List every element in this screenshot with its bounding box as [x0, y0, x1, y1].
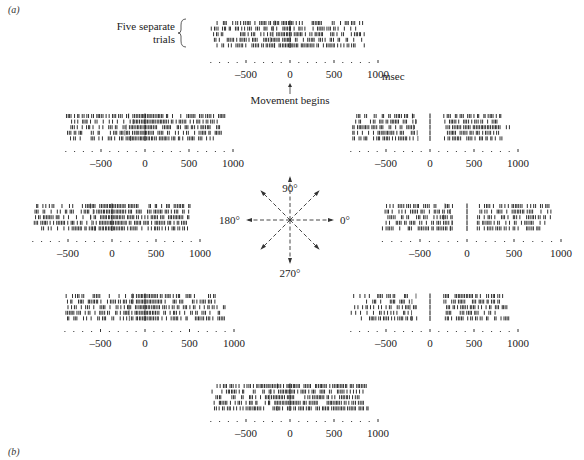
trial-row — [35, 209, 189, 214]
trials-brace — [178, 19, 186, 47]
tick-label: 1000 — [223, 337, 246, 349]
tick-label: –500 — [374, 337, 398, 349]
raster-panel-135: –50005001000 — [66, 114, 245, 170]
tick-label: 1000 — [550, 247, 573, 259]
trial-row — [214, 32, 365, 37]
trial-row — [68, 305, 225, 310]
compass-arrow-270 — [288, 220, 292, 264]
trial-row — [66, 294, 215, 299]
trial-row — [36, 215, 189, 220]
raster-panel-180: –50005001000 — [33, 204, 212, 260]
tick-label: 500 — [506, 247, 523, 259]
trial-row — [211, 26, 355, 31]
trial-row — [355, 305, 507, 310]
trial-row — [71, 125, 220, 130]
trial-row — [66, 310, 220, 315]
time-axis: –50005001000 — [66, 149, 245, 169]
tick-label: –500 — [56, 247, 80, 259]
raster-panel-270: –50005001000 — [211, 384, 390, 440]
time-axis: –50005001000 — [211, 419, 390, 439]
trial-row — [353, 136, 502, 141]
tick-label: 1000 — [222, 157, 245, 169]
compass-arrow-180 — [246, 218, 290, 222]
tick-label: 0 — [464, 247, 470, 259]
compass-arrow-135 — [260, 190, 290, 220]
tick-label: 0 — [427, 157, 433, 169]
movement-label: Movement begins — [250, 94, 329, 106]
trial-row — [217, 43, 364, 48]
trial-row — [72, 119, 218, 124]
tick-label: 0 — [427, 337, 433, 349]
tick-label: 1000 — [507, 157, 530, 169]
trial-row — [66, 114, 224, 119]
tick-label: –500 — [89, 157, 113, 169]
tick-label: –500 — [89, 337, 113, 349]
time-axis: –50005001000 — [211, 60, 390, 80]
raster-figure: (a) (b) Five separate trials msec Moveme… — [0, 0, 584, 460]
trial-row — [216, 395, 359, 400]
raster-panel-45: –50005001000 — [351, 114, 530, 170]
tick-label: 500 — [326, 68, 343, 80]
tick-label: 0 — [142, 157, 148, 169]
trial-row — [42, 226, 188, 231]
trial-row — [382, 226, 539, 231]
raster-panels: –50005001000–50005001000–50005001000–500… — [33, 21, 573, 440]
tick-label: 1000 — [367, 68, 390, 80]
time-axis: –50005001000 — [65, 329, 246, 349]
trial-row — [217, 384, 366, 389]
trial-row — [353, 125, 510, 130]
tick-label: –500 — [408, 247, 432, 259]
trial-row — [386, 220, 545, 225]
tick-label: –500 — [234, 427, 258, 439]
time-axis: –50005001000 — [351, 149, 530, 169]
movement-arrow — [288, 83, 292, 94]
trial-row — [367, 299, 500, 304]
tick-label: 500 — [466, 157, 483, 169]
time-axis: –50005001000 — [351, 329, 530, 349]
raster-panel-225: –50005001000 — [65, 294, 246, 350]
compass-arrow-0 — [290, 218, 334, 222]
tick-label: 1000 — [367, 427, 390, 439]
tick-label: 0 — [142, 337, 148, 349]
tick-label: –500 — [234, 68, 258, 80]
compass-label-0: 0° — [340, 214, 350, 226]
trial-row — [361, 316, 508, 321]
tick-label: 1000 — [507, 337, 530, 349]
compass-arrow-315 — [290, 220, 320, 250]
trial-row — [357, 114, 501, 119]
trial-row — [34, 220, 186, 225]
tick-label: 0 — [287, 68, 293, 80]
trials-label-line1: Five separate — [117, 20, 175, 32]
trial-row — [68, 130, 222, 135]
trial-row — [37, 204, 190, 209]
compass-arrow-225 — [260, 220, 290, 250]
tick-label: 500 — [326, 427, 343, 439]
trial-row — [354, 294, 503, 299]
tick-label: 500 — [148, 247, 165, 259]
tick-label: –500 — [374, 157, 398, 169]
compass-arrow-45 — [290, 190, 320, 220]
trial-row — [217, 21, 363, 26]
tick-label: 0 — [287, 427, 293, 439]
compass-label-180: 180° — [219, 214, 240, 226]
trial-row — [214, 400, 363, 405]
trial-row — [356, 119, 497, 124]
trial-row — [385, 209, 551, 214]
raster-panel-0: –50005001000 — [382, 204, 572, 260]
tick-label: 1000 — [189, 247, 212, 259]
panel-label-a: (a) — [8, 4, 20, 16]
trial-row — [214, 37, 361, 42]
trial-row — [387, 204, 549, 209]
tick-label: 500 — [466, 337, 483, 349]
trial-row — [71, 136, 214, 141]
time-axis: –50005001000 — [382, 239, 572, 259]
time-axis: –50005001000 — [33, 239, 212, 259]
trial-row — [388, 215, 550, 220]
trial-row — [212, 389, 363, 394]
trial-row — [351, 310, 495, 315]
raster-panel-90: –50005001000 — [211, 21, 390, 81]
compass-label-90: 90° — [282, 182, 297, 194]
tick-label: 500 — [181, 337, 198, 349]
trial-row — [68, 316, 225, 321]
trials-label-line2: trials — [153, 33, 175, 45]
